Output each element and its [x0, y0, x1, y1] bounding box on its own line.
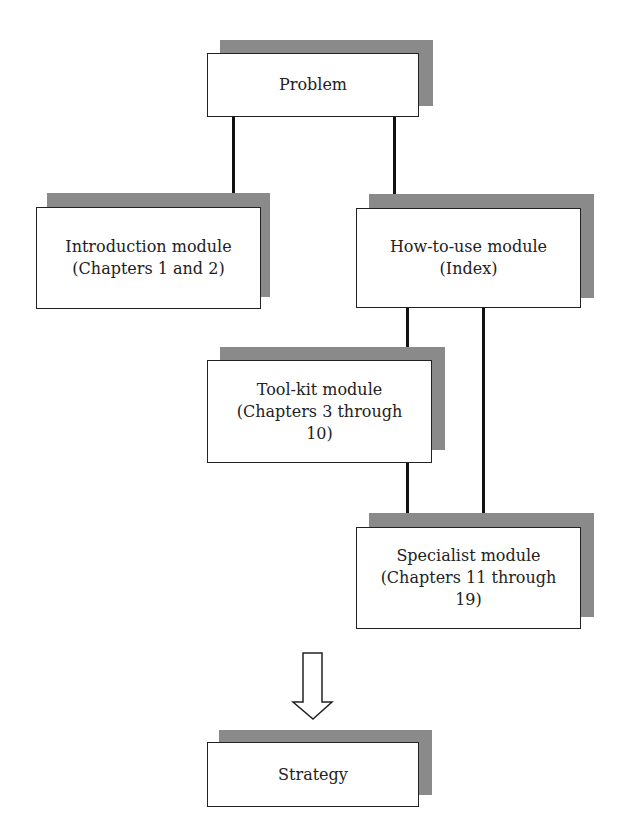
specialist-module-box: Specialist module (Chapters 11 through 1…: [356, 527, 581, 629]
how-to-use-module-box: How-to-use module (Index): [356, 208, 581, 308]
tool-kit-module-label: Tool-kit module (Chapters 3 through 10): [237, 379, 403, 445]
problem-box: Problem: [207, 53, 419, 117]
tool-kit-module-box: Tool-kit module (Chapters 3 through 10): [207, 360, 432, 463]
introduction-module-label: Introduction module (Chapters 1 and 2): [65, 236, 231, 280]
strategy-label: Strategy: [278, 764, 348, 786]
specialist-module-label: Specialist module (Chapters 11 through 1…: [381, 545, 557, 611]
strategy-box: Strategy: [207, 742, 419, 807]
how-to-use-module-label: How-to-use module (Index): [390, 236, 547, 280]
down-arrow-icon: [290, 650, 336, 722]
problem-label: Problem: [279, 74, 347, 96]
connector-how-to-use-specialist: [482, 307, 485, 528]
introduction-module-box: Introduction module (Chapters 1 and 2): [36, 207, 261, 309]
